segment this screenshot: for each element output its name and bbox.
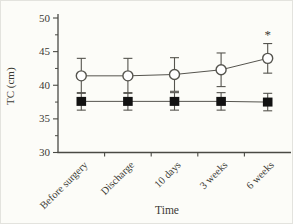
x-category-label: 3 weeks bbox=[198, 159, 230, 191]
x-category-label: 10 days bbox=[152, 159, 183, 190]
open-circle-marker bbox=[76, 71, 86, 81]
significance-asterisk: * bbox=[264, 27, 271, 42]
filled-square-marker bbox=[123, 97, 133, 106]
y-tick-label: 50 bbox=[39, 12, 51, 24]
open-circle-marker bbox=[170, 69, 180, 79]
y-tick-label: 45 bbox=[39, 45, 51, 57]
x-axis-title: Time bbox=[155, 204, 179, 216]
chart-figure: 3035404550Before surgeryDischarge10 days… bbox=[0, 0, 293, 224]
filled-square-marker bbox=[170, 97, 180, 106]
filled-square-marker bbox=[263, 98, 273, 107]
filled-square-marker bbox=[216, 97, 226, 106]
open-circle-marker bbox=[263, 53, 273, 63]
tc-vs-time-line-chart: 3035404550Before surgeryDischarge10 days… bbox=[1, 1, 293, 224]
open-circle-marker bbox=[123, 71, 133, 81]
x-category-label: Discharge bbox=[99, 159, 137, 197]
y-tick-label: 35 bbox=[39, 112, 51, 124]
y-tick-label: 40 bbox=[39, 79, 51, 91]
open-circle-marker bbox=[216, 65, 226, 75]
x-category-label: Before surgery bbox=[38, 159, 90, 211]
filled-square-marker bbox=[77, 97, 87, 106]
y-axis-title: TC (cm) bbox=[4, 67, 17, 105]
x-category-label: 6 weeks bbox=[244, 159, 276, 191]
y-tick-label: 30 bbox=[39, 146, 51, 158]
